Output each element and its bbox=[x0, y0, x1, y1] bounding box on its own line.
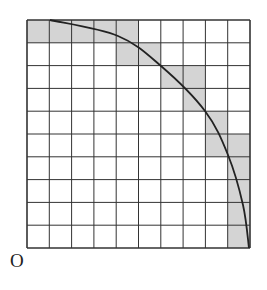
shaded-cell bbox=[228, 157, 250, 180]
shaded-cell bbox=[183, 66, 205, 89]
shaded-cell bbox=[228, 134, 250, 157]
quarter-circle-grid-diagram bbox=[0, 0, 267, 290]
shaded-cell bbox=[27, 20, 49, 43]
shaded-cell bbox=[116, 43, 138, 66]
origin-label: O bbox=[10, 251, 24, 270]
shaded-cell bbox=[72, 20, 94, 43]
shaded-cell bbox=[116, 20, 138, 43]
